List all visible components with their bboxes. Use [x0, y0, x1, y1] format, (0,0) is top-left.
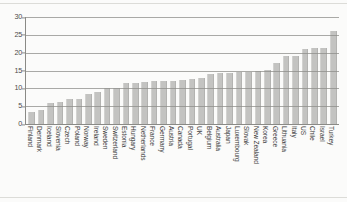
- category-slot: Turkey: [328, 126, 337, 198]
- category-label-italy: Italy: [290, 126, 297, 138]
- category-label-uk: UK: [196, 126, 203, 135]
- y-axis-tick-5: 5: [18, 103, 22, 110]
- category-slot: Israel: [318, 126, 327, 198]
- bar: [283, 56, 290, 124]
- category-label-ireland: Ireland: [92, 126, 99, 145]
- bar: [245, 72, 252, 124]
- bar: [207, 74, 214, 124]
- bar-chart: 051015202530 FinlandDenmarkIcelandSloven…: [0, 0, 347, 202]
- bar: [302, 49, 309, 124]
- bar: [28, 112, 35, 124]
- category-slot: Slovenia: [54, 126, 63, 198]
- y-axis-tick-10: 10: [14, 85, 22, 92]
- category-slot: Belgium: [205, 126, 214, 198]
- category-slot: Ireland: [92, 126, 101, 198]
- bar: [123, 83, 130, 124]
- category-label-japan: Japan: [224, 126, 231, 143]
- category-label-portugal: Portugal: [187, 126, 194, 150]
- category-slot: UK: [196, 126, 205, 198]
- category-label-slovak: Slovak: [243, 126, 250, 145]
- category-slot: Poland: [73, 126, 82, 198]
- bar: [170, 81, 177, 125]
- bar: [94, 92, 101, 124]
- category-label-hungary: Hungary: [130, 126, 137, 150]
- bar: [66, 99, 73, 124]
- category-slot: Portugal: [186, 126, 195, 198]
- category-label-korea: Korea: [262, 126, 269, 143]
- y-axis-tick-labels: 051015202530: [2, 12, 22, 124]
- gridline-10: [26, 88, 339, 89]
- bar: [264, 70, 271, 124]
- category-slot: Slovak: [243, 126, 252, 198]
- category-label-norway: Norway: [83, 126, 90, 148]
- bar: [57, 102, 64, 124]
- category-label-sweden: Sweden: [102, 126, 109, 149]
- bar: [198, 78, 205, 124]
- category-slot: Japan: [224, 126, 233, 198]
- category-label-iceland: Iceland: [45, 126, 52, 147]
- category-slot: Australia: [214, 126, 223, 198]
- category-label-estonia: Estonia: [121, 126, 128, 147]
- category-label-chile: Chile: [309, 126, 316, 141]
- bar: [85, 94, 92, 124]
- category-label-canada: Canada: [177, 126, 184, 149]
- y-axis-tick-30: 30: [14, 13, 22, 20]
- category-slot: France: [148, 126, 157, 198]
- category-slot: Canada: [177, 126, 186, 198]
- y-axis-tick-15: 15: [14, 67, 22, 74]
- category-label-australia: Australia: [215, 126, 222, 151]
- y-axis-tick-25: 25: [14, 31, 22, 38]
- category-label-greece: Greece: [271, 126, 278, 147]
- bar: [236, 72, 243, 124]
- category-label-lithuania: Lithuania: [281, 126, 288, 152]
- category-label-finland: Finland: [27, 126, 34, 147]
- y-axis-tick-20: 20: [14, 49, 22, 56]
- category-slot: Sweden: [101, 126, 110, 198]
- bar: [320, 48, 327, 124]
- category-label-belgium: Belgium: [206, 126, 213, 149]
- bar: [311, 48, 318, 124]
- bar: [226, 73, 233, 124]
- bar: [217, 73, 224, 124]
- bar: [189, 79, 196, 124]
- category-slot: Korea: [262, 126, 271, 198]
- category-slot: Netherlands: [139, 126, 148, 198]
- category-slot: Italy: [290, 126, 299, 198]
- category-slot: Germany: [158, 126, 167, 198]
- category-label-netherlands: Netherlands: [140, 126, 147, 160]
- category-slot: Austria: [167, 126, 176, 198]
- gridline-20: [26, 53, 339, 54]
- category-slot: Luxembourg: [233, 126, 242, 198]
- category-label-austria: Austria: [168, 126, 175, 146]
- category-slot: Chile: [309, 126, 318, 198]
- category-label-us: US: [300, 126, 307, 135]
- category-slot: Czech: [64, 126, 73, 198]
- bar: [330, 31, 337, 124]
- category-label-slovenia: Slovenia: [55, 126, 62, 151]
- category-label-denmark: Denmark: [36, 126, 43, 152]
- category-slot: Greece: [271, 126, 280, 198]
- plot-area: [25, 17, 339, 125]
- category-label-france: France: [149, 126, 156, 146]
- bar: [76, 99, 83, 124]
- gridline-5: [26, 106, 339, 107]
- category-slot: Lithuania: [280, 126, 289, 198]
- category-slot: New Zealand: [252, 126, 261, 198]
- category-label-turkey: Turkey: [328, 126, 335, 145]
- bar: [255, 71, 262, 125]
- bar: [292, 56, 299, 124]
- category-slot: US: [299, 126, 308, 198]
- category-slot: Hungary: [130, 126, 139, 198]
- category-slot: Denmark: [35, 126, 44, 198]
- bar: [273, 63, 280, 124]
- category-slot: Iceland: [45, 126, 54, 198]
- gridline-25: [26, 35, 339, 36]
- category-slot: Norway: [83, 126, 92, 198]
- category-label-poland: Poland: [74, 126, 81, 146]
- category-slot: Finland: [26, 126, 35, 198]
- category-label-czech: Czech: [64, 126, 71, 144]
- category-label-germany: Germany: [158, 126, 165, 152]
- category-label-switzerland: Switzerland: [111, 126, 118, 159]
- category-label-luxembourg: Luxembourg: [234, 126, 241, 162]
- category-label-new-zealand: New Zealand: [253, 126, 260, 164]
